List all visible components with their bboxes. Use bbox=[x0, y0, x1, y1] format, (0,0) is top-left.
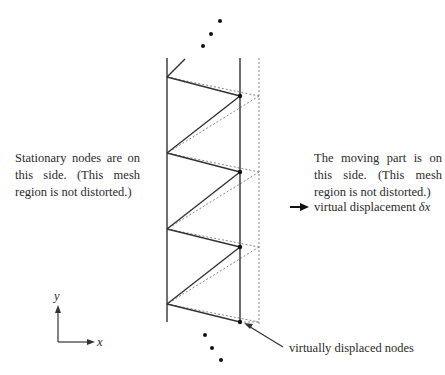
virtual-displacement-arrow-icon bbox=[290, 203, 309, 211]
stationary-side-note: Stationary nodes are on this side. (This… bbox=[15, 150, 140, 201]
virtual-displacement-text: virtual displacement bbox=[314, 200, 416, 214]
original-mesh bbox=[167, 58, 240, 322]
y-axis-label: y bbox=[54, 288, 60, 305]
delta-x-symbol: δx bbox=[419, 200, 430, 214]
virtual-displacement-label: virtual displacement δx bbox=[314, 199, 430, 216]
x-axis-label: x bbox=[97, 334, 103, 351]
continuation-dots-bottom bbox=[203, 333, 223, 362]
nodes-pointer-arrow-icon bbox=[244, 323, 283, 347]
displaced-nodes-label: virtually displaced nodes bbox=[289, 340, 414, 357]
axes-icon bbox=[55, 305, 95, 345]
displaced-mesh bbox=[167, 58, 259, 325]
moving-side-note: The moving part is on this side. (This m… bbox=[314, 150, 442, 201]
continuation-dots-top bbox=[201, 19, 222, 48]
